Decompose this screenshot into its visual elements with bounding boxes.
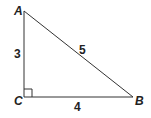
side-label-cb: 4 [74, 100, 81, 114]
triangle-svg: A C B 3 4 5 [0, 0, 151, 118]
triangle-diagram: A C B 3 4 5 [0, 0, 151, 118]
side-label-ac: 3 [14, 47, 21, 61]
vertex-label-a: A [13, 4, 23, 18]
right-angle-marker [24, 89, 32, 97]
side-label-ab: 5 [79, 43, 86, 57]
vertex-label-b: B [135, 94, 144, 108]
vertex-label-c: C [14, 94, 23, 108]
